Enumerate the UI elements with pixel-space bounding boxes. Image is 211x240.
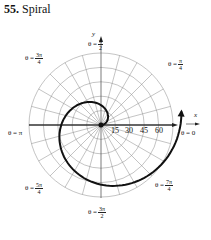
angle-label-pi: θ = π <box>8 130 22 137</box>
y-axis-label: y <box>92 31 95 38</box>
radial-tick-60: 60 <box>155 126 163 135</box>
angle-label-3pi-over-2: θ = 3π2 <box>88 206 106 219</box>
radial-tick-45: 45 <box>140 126 148 135</box>
angle-label-zero: θ = 0 <box>181 130 195 137</box>
radial-tick-15: 15 <box>111 126 119 135</box>
spiral-arrow-icon <box>178 110 185 117</box>
angle-label-pi-over-2: θ = π2 <box>88 38 103 51</box>
spiral-curve <box>59 102 181 186</box>
angle-label-7pi-over-4: θ = 7π4 <box>155 179 173 192</box>
angle-label-5pi-over-4: θ = 5π4 <box>25 182 43 195</box>
angle-label-pi-over-4: θ = π4 <box>168 58 183 71</box>
angle-label-3pi-over-4: θ = 3π4 <box>25 52 43 65</box>
pole-point <box>99 123 104 128</box>
x-axis-arrow-icon <box>172 123 178 127</box>
x-axis-label: x <box>194 112 197 119</box>
radial-tick-30: 30 <box>125 126 133 135</box>
